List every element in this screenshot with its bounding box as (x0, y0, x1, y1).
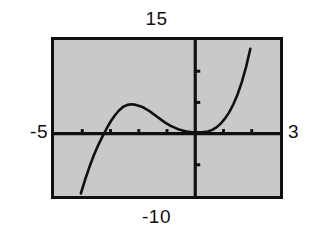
calculator-graph-figure: 15 -5 3 -10 (0, 0, 313, 237)
plot-area (54, 40, 280, 196)
y-max-label: 15 (0, 9, 313, 28)
y-min-label: -10 (0, 207, 313, 226)
plot-svg (54, 40, 280, 196)
calculator-screen-frame (51, 37, 283, 199)
cubic-curve (81, 49, 251, 194)
x-max-label: 3 (288, 122, 310, 141)
x-min-label: -5 (10, 122, 48, 141)
